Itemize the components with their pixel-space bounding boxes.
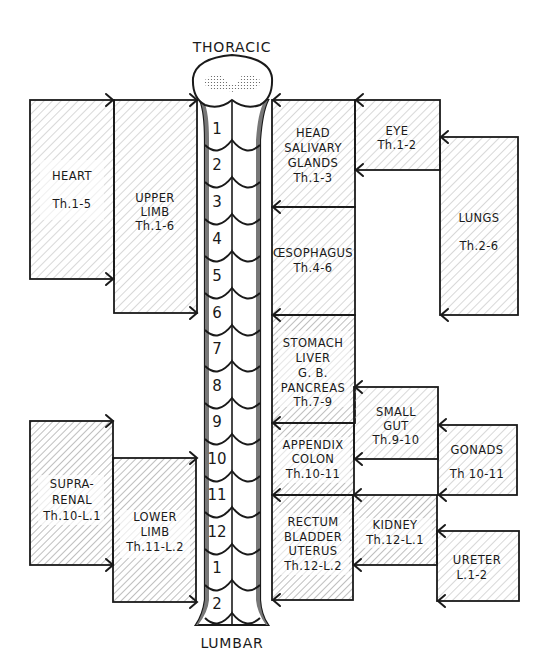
segment-th12: 12 [207, 523, 226, 541]
small-gut-range: Th.9-10 [372, 433, 420, 447]
segment-th11: 11 [207, 486, 226, 504]
segment-l1: 1 [212, 559, 222, 577]
lungs-label: LUNGS [458, 211, 499, 225]
suprarenal-label-2: RENAL [52, 493, 92, 507]
stomach-label-3: G. B. [298, 366, 328, 380]
box-lower-limb: LOWER LIMB Th.11-L.2 [113, 458, 196, 602]
upper-limb-range: Th.1-6 [134, 219, 174, 233]
oesophagus-label: ŒSOPHAGUS [273, 246, 353, 260]
lower-limb-label-1: LOWER [133, 510, 177, 524]
box-rectum: RECTUM BLADDER UTERUS Th.12-L.2 [272, 495, 353, 600]
lower-limb-range: Th.11-L.2 [125, 540, 184, 554]
head-label-2: SALIVARY [284, 141, 342, 155]
head-label-3: GLANDS [288, 156, 339, 170]
segment-l2: 2 [212, 595, 222, 613]
rectum-range: Th.12-L.2 [283, 559, 342, 573]
segment-th7: 7 [212, 340, 222, 358]
box-appendix: APPENDIX COLON Th.10-11 [272, 423, 354, 495]
rectum-label-3: UTERUS [289, 544, 338, 558]
box-eye: EYE Th.1-2 [355, 100, 440, 170]
box-kidney: KIDNEY Th.12-L.1 [353, 495, 437, 565]
small-gut-label-1: SMALL [376, 405, 416, 419]
heart-label: HEART [52, 169, 93, 183]
box-stomach: STOMACH LIVER G. B. PANCREAS Th.7-9 [272, 315, 355, 423]
head-label-1: HEAD [296, 126, 330, 140]
segment-th8: 8 [212, 377, 222, 395]
kidney-label: KIDNEY [372, 518, 418, 532]
stomach-label-1: STOMACH [283, 336, 343, 350]
segment-th2: 2 [212, 156, 222, 174]
lower-limb-label-2: LIMB [140, 525, 169, 539]
segment-th9: 9 [212, 413, 222, 431]
upper-limb-label-2: LIMB [140, 205, 169, 219]
ureter-label: URETER [453, 553, 501, 567]
stomach-label-4: PANCREAS [281, 381, 345, 395]
box-small-gut: SMALL GUT Th.9-10 [354, 387, 438, 459]
heart-range: Th.1-5 [51, 197, 91, 211]
rectum-label-1: RECTUM [287, 515, 338, 529]
appendix-label-2: COLON [292, 452, 335, 466]
head-range: Th.1-3 [292, 171, 332, 185]
segment-th5: 5 [212, 267, 222, 285]
spinal-segment-diagram: THORACIC HEART Th.1-5 UPPER LIMB Th.1-6 … [0, 0, 556, 657]
upper-limb-label-1: UPPER [135, 191, 175, 205]
box-suprarenal: SUPRA- RENAL Th.10-L.1 [30, 421, 113, 565]
appendix-range: Th.10-11 [285, 467, 341, 481]
box-heart: HEART Th.1-5 [30, 100, 114, 279]
suprarenal-label-1: SUPRA- [50, 477, 94, 491]
stomach-label-2: LIVER [296, 351, 331, 365]
rectum-label-2: BLADDER [284, 530, 342, 544]
thoracic-label: THORACIC [192, 39, 272, 55]
box-upper-limb: UPPER LIMB Th.1-6 [114, 100, 197, 313]
small-gut-label-2: GUT [383, 419, 409, 433]
oesophagus-range: Th.4-6 [292, 261, 332, 275]
gonads-label: GONADS [451, 443, 504, 457]
ureter-range: L.1-2 [457, 568, 488, 582]
gonads-range: Th 10-11 [449, 467, 505, 481]
segment-th10: 10 [207, 450, 226, 468]
segment-th4: 4 [212, 230, 222, 248]
eye-range: Th.1-2 [376, 138, 416, 152]
stomach-range: Th.7-9 [292, 395, 332, 409]
box-oesophagus: ŒSOPHAGUS Th.4-6 [272, 207, 355, 315]
suprarenal-range: Th.10-L.1 [42, 509, 101, 523]
lungs-range: Th.2-6 [458, 239, 498, 253]
kidney-range: Th.12-L.1 [365, 533, 424, 547]
box-lungs: LUNGS Th.2-6 [440, 137, 518, 315]
segment-th1: 1 [212, 120, 222, 138]
segment-th6: 6 [212, 304, 222, 322]
box-head-salivary: HEAD SALIVARY GLANDS Th.1-3 [272, 100, 355, 207]
segment-th3: 3 [212, 193, 222, 211]
box-ureter: URETER L.1-2 [437, 531, 519, 601]
box-gonads: GONADS Th 10-11 [438, 425, 517, 495]
eye-label: EYE [386, 124, 409, 138]
appendix-label-1: APPENDIX [283, 438, 344, 452]
lumbar-label: LUMBAR [200, 635, 263, 651]
